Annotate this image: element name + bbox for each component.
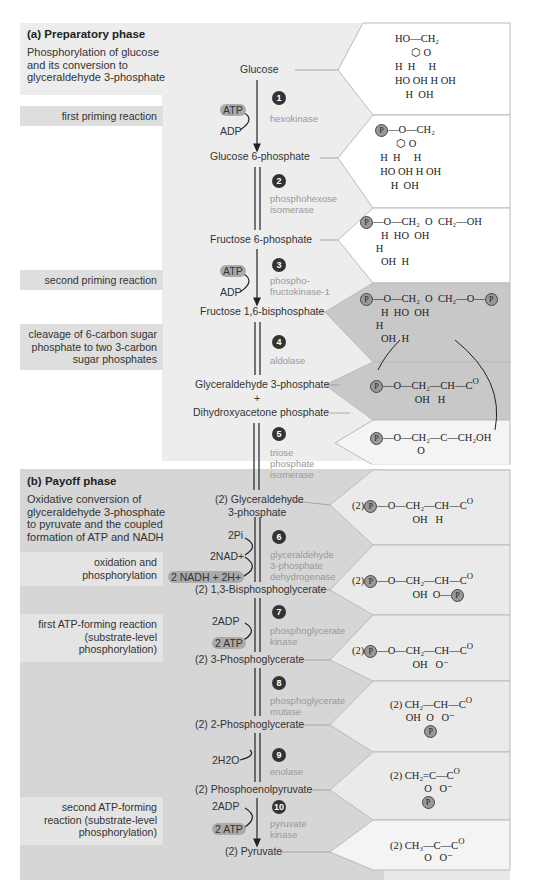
prep-phase-title: (a) Preparatory phase [27,28,172,40]
phosphate-icon: P [370,432,383,445]
payoff-phase-title: (b) Payoff phase [27,475,167,487]
label-first-priming: first priming reaction [20,106,163,126]
step-number-3: 3 [272,258,286,272]
phosphate-icon: P [422,796,435,809]
step-number-1: 1 [272,91,286,105]
label-cleavage: cleavage of 6-carbon sugar phosphate to … [20,324,163,370]
phosphate-icon: P [485,293,498,306]
cofactor-atp-step3: ATP [220,265,246,277]
cofactor-atp-step10: 2 ATP [212,823,246,835]
enzyme-phosphoglycerate-kinase: phosphoglycerate kinase [270,625,340,647]
structure-dihydroxyacetone-phosphate: P—O—CH₂—C—CH₂OH O [370,432,491,457]
step-number-8: 8 [272,676,286,690]
cofactor-h2o-step9: 2H2O [212,754,239,766]
compound-pyruvate: (2) Pyruvate [225,845,282,857]
compound-3-phosphoglycerate: (2) 3-Phosphoglycerate [195,653,304,665]
enzyme-aldolase: aldolase [270,355,330,366]
structure-2-glyceraldehyde-3-phosphate: (2)P—O—CH₂—CH—CO OH H [352,495,473,526]
structure-phosphoenolpyruvate: (2) CH₂=C—CO O O⁻ P [390,765,460,809]
cofactor-nadh-step6: 2 NADH + 2H+ [168,571,244,583]
enzyme-enolase: enolase [270,766,330,777]
step-number-4: 4 [272,335,286,349]
plus-sign: + [254,392,260,404]
structure-fructose-6-phosphate: P—O—CH₂ O CH₂—OH H HO OH H OH H [360,215,482,268]
enzyme-pyruvate-kinase: pyruvate kinase [270,818,320,840]
phosphate-icon: P [364,645,377,658]
cofactor-adp-step10: 2ADP [212,800,239,812]
compound-1-3-bisphosphoglycerate: (2) 1,3-Bisphosphoglycerate [195,583,326,595]
enzyme-phosphohexose-isomerase: phosphohexose isomerase [270,193,340,215]
step-number-10: 10 [272,800,286,814]
compound-glyceraldehyde-3-phosphate: Glyceraldehyde 3-phosphate [195,378,329,390]
prep-phase-description: Phosphorylation of glucose and its conve… [27,46,172,84]
phosphate-icon: P [360,216,373,229]
compound-dihydroxyacetone-phosphate: Dihydroxyacetone phosphate [193,406,329,418]
enzyme-g3p-dehydrogenase: glyceraldehyde 3-phosphate dehydrogenase [270,549,340,582]
cofactor-atp-step7: 2 ATP [212,637,246,649]
cofactor-pi-step6: 2Pi [228,529,243,541]
cofactor-atp-step1: ATP [220,104,246,116]
compound-glucose: Glucose [240,63,279,75]
compound-glucose-6-phosphate: Glucose 6-phosphate [210,150,310,162]
compound-2-glyceraldehyde-line2: 3-phosphate [228,506,286,518]
phosphate-icon: P [360,293,373,306]
label-second-priming: second priming reaction [20,270,163,290]
enzyme-hexokinase: hexokinase [270,113,350,124]
enzyme-phosphofructokinase-1: phospho- fructokinase-1 [270,275,334,297]
step-number-6: 6 [272,530,286,544]
phosphate-icon: P [364,500,377,513]
label-second-atp: second ATP-forming reaction (substrate-l… [20,797,163,845]
phosphate-icon: P [424,725,437,738]
structure-2-phosphoglycerate: (2) CH₂—CH—CO OH O O⁻ P [390,694,472,738]
structure-3-phosphoglycerate: (2)P—O—CH₂—CH—CO OH O⁻ [352,640,473,671]
compound-phosphoenolpyruvate: (2) Phosphoenolpyruvate [195,783,312,795]
label-first-atp: first ATP-forming reaction (substrate-le… [20,614,163,662]
cofactor-adp-step1: ADP [220,125,242,137]
step-number-5: 5 [272,427,286,441]
phosphate-icon: P [375,124,388,137]
compound-2-phosphoglycerate: (2) 2-Phosphoglycerate [195,718,304,730]
step-number-7: 7 [272,605,286,619]
structure-glyceraldehyde-3-phosphate: P—O—CH₂—CH—CO OH H [370,375,479,406]
compound-2-glyceraldehyde: (2) Glyceraldehyde [215,493,304,505]
step-number-2: 2 [272,174,286,188]
phosphate-icon: P [451,589,464,602]
phosphate-icon: P [370,380,383,393]
structure-glucose-6-phosphate: P—O—CH₂ ⬡ O H H H HO OH H OH H OH [375,123,441,193]
compound-fructose-1-6-bisphosphate: Fructose 1,6-bisphosphate [200,305,324,317]
cofactor-nad-step6: 2NAD+ [210,550,244,562]
cofactor-adp-step3: ADP [220,286,242,298]
enzyme-phosphoglycerate-mutase: phosphoglycerate mutase [270,695,340,717]
label-oxidation: oxidation and phosphorylation [20,552,163,586]
compound-fructose-6-phosphate: Fructose 6-phosphate [210,233,312,245]
structure-glucose: HO—CH₂ ⬡ OH H HHO OH H OH H OH [395,32,456,102]
cofactor-adp-step7: 2ADP [212,615,239,627]
structure-fructose-1-6-bisphosphate: P—O—CH₂ O CH₂—O—P H HO OH H OH H [360,292,498,345]
phosphate-icon: P [364,575,377,588]
step-number-9: 9 [272,748,286,762]
payoff-phase-header: (b) Payoff phase Oxidative conversion of… [27,475,167,543]
structure-pyruvate: (2) CH₃—C—CO O O⁻ [390,835,464,864]
structure-1-3-bisphosphoglycerate: (2)P—O—CH₂—CH—CO OH O—P [352,570,473,602]
enzyme-triose-phosphate-isomerase: triose phosphate isomerase [270,447,340,480]
prep-phase-header: (a) Preparatory phase Phosphorylation of… [27,28,172,84]
payoff-phase-description: Oxidative conversion of glyceraldehyde 3… [27,493,167,543]
